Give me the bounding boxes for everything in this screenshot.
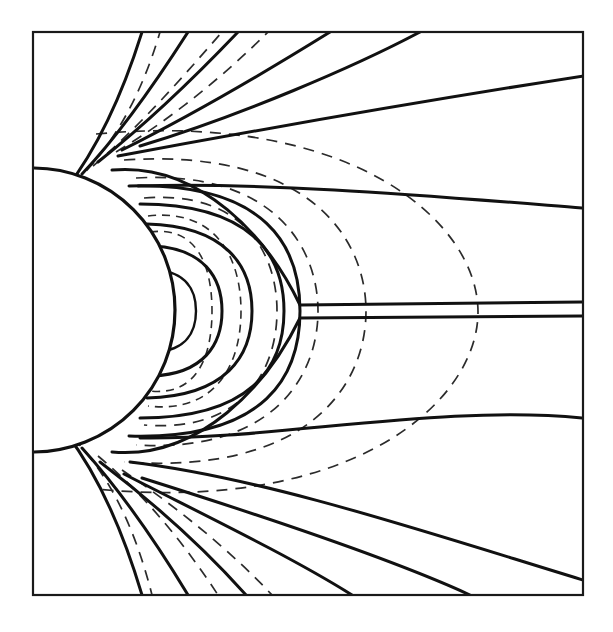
field-line-open-fl-north-7 bbox=[138, 185, 583, 208]
field-line-open-fl-south-6 bbox=[130, 462, 583, 580]
figure-root bbox=[0, 0, 613, 632]
field-line-open-fl-north-4 bbox=[122, 32, 330, 150]
field-line-open-fl-south-5 bbox=[142, 478, 470, 595]
field-line-dipole-open-up-2 bbox=[93, 32, 222, 166]
field-line-open-fl-south-3 bbox=[100, 462, 246, 595]
magnetic-field-diagram bbox=[0, 0, 613, 632]
field-line-tail-separatrix-lower bbox=[112, 316, 583, 453]
field-line-open-fl-south-1 bbox=[66, 433, 142, 595]
field-line-dipole-open-down-3 bbox=[122, 470, 272, 595]
field-line-open-fl-north-1 bbox=[66, 32, 142, 189]
planet-body bbox=[0, 168, 175, 452]
